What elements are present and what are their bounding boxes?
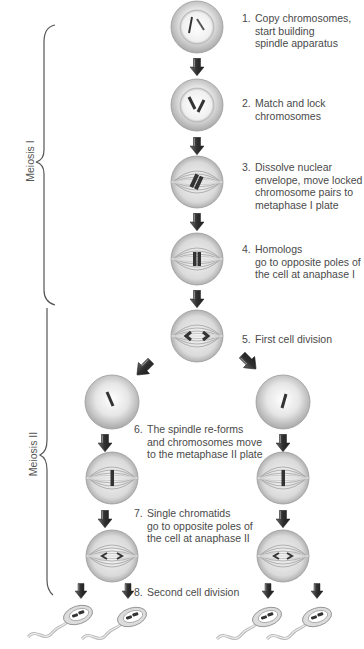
arrow-down-right-1 <box>276 434 290 452</box>
cell-left-daughter <box>85 375 139 429</box>
cell-step-2 <box>171 79 223 131</box>
arrow-down-left-1 <box>98 434 112 452</box>
meiosis-1-brace <box>36 25 55 305</box>
phase-label-meiosis-2: Meiosis II <box>27 429 39 479</box>
cell-step-3 <box>171 156 223 208</box>
arrow-down-2 <box>190 137 204 155</box>
cell-right-anaphase-2 <box>257 530 309 582</box>
cell-right-metaphase-2 <box>257 452 309 504</box>
cell-step-4 <box>171 233 223 285</box>
step-1-label: 1.Copy chromosomes, start building spind… <box>242 12 351 50</box>
cell-step-1 <box>171 1 223 53</box>
cell-step-5 <box>171 310 223 362</box>
arrow-down-sperm-2 <box>122 584 134 599</box>
meiosis-2-brace <box>40 308 53 595</box>
sperm-3 <box>217 604 284 639</box>
cell-left-anaphase-2 <box>86 530 138 582</box>
arrow-down-left-2 <box>98 510 112 528</box>
arrow-down-sperm-4 <box>311 584 323 599</box>
arrow-down-4 <box>190 290 204 308</box>
arrow-down-sperm-3 <box>262 584 274 599</box>
step-3-label: 3.Dissolve nuclear envelope, move locked… <box>242 161 362 211</box>
step-5-label: 5.First cell division <box>242 333 332 346</box>
step-7-label: 7.Single chromatids go to opposite poles… <box>134 507 253 545</box>
arrow-diagonal-left <box>131 355 156 380</box>
step-6-label: 6.The spindle re-forms and chromosomes m… <box>134 423 263 461</box>
cell-left-metaphase-2 <box>86 452 138 504</box>
step-2-label: 2.Match and lock chromosomes <box>242 97 326 122</box>
arrow-down-sperm-1 <box>75 584 87 599</box>
step-8-label: 8.Second cell division <box>134 586 239 599</box>
cell-right-daughter <box>256 375 310 429</box>
phase-label-meiosis-1: Meiosis I <box>24 139 36 183</box>
arrow-down-3 <box>190 213 204 231</box>
sperm-1 <box>28 602 95 637</box>
arrow-down-right-2 <box>276 510 290 528</box>
arrow-down-1 <box>190 58 204 76</box>
arrow-diagonal-right <box>236 349 261 374</box>
step-4-label: 4.Homologs go to opposite poles of the c… <box>242 243 361 281</box>
